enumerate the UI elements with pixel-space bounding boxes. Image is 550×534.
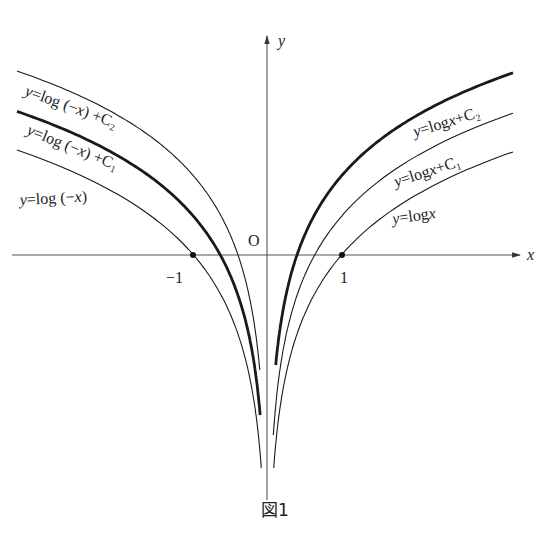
x-axis-label: x: [526, 246, 534, 263]
tick-label-one: 1: [340, 269, 348, 286]
label-logx-c2: y=logx+C₂: [409, 103, 482, 141]
figure-caption: 図1: [0, 496, 550, 521]
curve-logx-c1: [273, 113, 513, 435]
point-minus-one: [190, 252, 196, 258]
label-log-neg-x: y=log (−x): [17, 187, 87, 209]
label-logx-c1: y=logx+C₁: [390, 152, 463, 191]
curve-log-neg-x-c1: [17, 111, 260, 415]
point-one: [339, 252, 345, 258]
label-log-neg-x-c1: y=log (−x) +C₁: [23, 120, 121, 174]
y-axis-label: y: [276, 32, 286, 50]
log-curves-figure: y x O −1 1 y=logx y=logx+C₁ y=logx+C₂ y=…: [0, 0, 550, 534]
curve-logx: [274, 152, 513, 468]
origin-label: O: [248, 232, 260, 249]
tick-label-minus-one: −1: [166, 269, 183, 286]
curve-log-neg-x-c2: [17, 71, 260, 370]
